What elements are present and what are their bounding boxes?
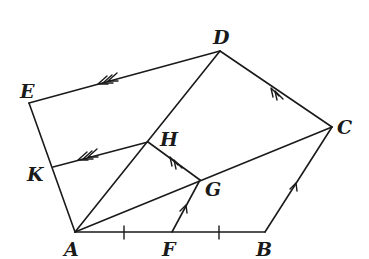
label-B: B <box>255 238 272 259</box>
label-K: K <box>26 163 45 185</box>
label-E: E <box>19 80 35 102</box>
segment-CD <box>220 51 332 127</box>
label-G: G <box>205 178 221 200</box>
label-H: H <box>159 128 179 150</box>
label-D: D <box>212 26 230 48</box>
label-F: F <box>161 238 177 259</box>
label-A: A <box>62 238 79 259</box>
arrow-mark-GH-2 <box>174 160 182 169</box>
geometry-diagram: A F B C D E K H G <box>0 0 369 259</box>
segment-AC <box>75 127 332 232</box>
segment-BC <box>265 127 332 232</box>
segment-DE <box>29 51 220 103</box>
segment-KH <box>53 142 148 167</box>
label-C: C <box>337 116 352 138</box>
